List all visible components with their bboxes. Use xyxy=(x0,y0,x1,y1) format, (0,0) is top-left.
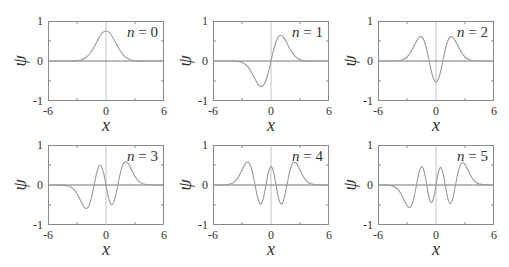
panel-label-value: = 0 xyxy=(135,24,158,40)
x-axis-label: x xyxy=(261,240,281,258)
panel-label-value: = 3 xyxy=(135,148,158,164)
x-tick-label: -6 xyxy=(203,105,223,117)
x-tick-label: 6 xyxy=(154,105,174,117)
panel-label-value: = 4 xyxy=(300,148,323,164)
plot-panel-n2: n = 2 xyxy=(378,21,494,101)
x-tick-label: 6 xyxy=(484,105,504,117)
x-axis-label: x xyxy=(426,240,446,258)
plot-panel-n1: n = 1 xyxy=(213,21,329,101)
panel-label-variable: n xyxy=(127,148,135,164)
x-tick-label: -6 xyxy=(368,229,388,241)
plot-panel-n5: n = 5 xyxy=(378,145,494,225)
x-tick-label: 6 xyxy=(319,105,339,117)
x-axis-label: x xyxy=(426,116,446,134)
plot-panel-n0: n = 0 xyxy=(48,21,164,101)
y-tick-label: 1 xyxy=(353,15,373,27)
y-tick-label: 1 xyxy=(23,15,43,27)
panel-label-variable: n xyxy=(292,24,300,40)
panel-label-value: = 2 xyxy=(465,24,488,40)
y-tick-label: 1 xyxy=(353,139,373,151)
panel-label-variable: n xyxy=(457,148,465,164)
x-tick-label: -6 xyxy=(203,229,223,241)
x-tick-label: 6 xyxy=(484,229,504,241)
y-axis-label: ψ xyxy=(176,53,194,69)
panel-label-variable: n xyxy=(292,148,300,164)
panel-label-value: = 5 xyxy=(465,148,488,164)
panel-label: n = 1 xyxy=(292,25,323,40)
y-axis-label: ψ xyxy=(341,177,359,193)
panel-label-value: = 1 xyxy=(300,24,323,40)
x-axis-label: x xyxy=(261,116,281,134)
x-tick-label: 6 xyxy=(154,229,174,241)
x-tick-label: 6 xyxy=(319,229,339,241)
plot-panel-n3: n = 3 xyxy=(48,145,164,225)
y-tick-label: 1 xyxy=(188,139,208,151)
panel-label: n = 4 xyxy=(292,149,323,164)
x-tick-label: -6 xyxy=(38,105,58,117)
x-tick-label: -6 xyxy=(368,105,388,117)
panel-label: n = 0 xyxy=(127,25,158,40)
plot-panel-n4: n = 4 xyxy=(213,145,329,225)
y-tick-label: 1 xyxy=(188,15,208,27)
panel-label-variable: n xyxy=(127,24,135,40)
x-tick-label: -6 xyxy=(38,229,58,241)
x-axis-label: x xyxy=(96,240,116,258)
y-axis-label: ψ xyxy=(11,53,29,69)
panel-label: n = 5 xyxy=(457,149,488,164)
x-axis-label: x xyxy=(96,116,116,134)
y-axis-label: ψ xyxy=(176,177,194,193)
y-axis-label: ψ xyxy=(341,53,359,69)
y-axis-label: ψ xyxy=(11,177,29,193)
wavefunction-figure: n = 010-1-606xψn = 110-1-606xψn = 210-1-… xyxy=(0,0,509,267)
panel-label: n = 2 xyxy=(457,25,488,40)
panel-label-variable: n xyxy=(457,24,465,40)
y-tick-label: 1 xyxy=(23,139,43,151)
panel-label: n = 3 xyxy=(127,149,158,164)
